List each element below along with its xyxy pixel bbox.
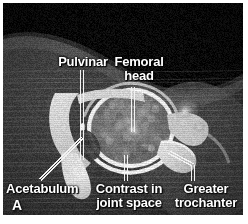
label-acetabulum: Acetabulum	[6, 182, 84, 196]
label-contrast-in-joint-space: Contrast in joint space	[93, 182, 165, 209]
label-femoral-head: Femoral head	[110, 55, 168, 82]
annotation-overlay: Pulvinar Femoral head Acetabulum Contras…	[0, 0, 248, 224]
label-pulvinar: Pulvinar	[58, 55, 108, 69]
panel-marker-a: A	[12, 197, 22, 213]
label-greater-trochanter: Greater trochanter	[170, 182, 242, 209]
ct-figure: Pulvinar Femoral head Acetabulum Contras…	[0, 0, 248, 224]
